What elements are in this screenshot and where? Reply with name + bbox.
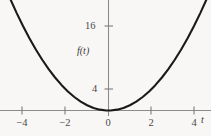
x-tick-label-4: 4 <box>191 118 196 129</box>
plot-canvas <box>0 0 211 136</box>
y-tick-label-4: 4 <box>92 84 97 95</box>
x-tick-label-2: 2 <box>148 118 153 129</box>
parabola-figure: f(t) t 16 4 −4 −2 0 2 4 <box>0 0 211 136</box>
y-axis-title: f(t) <box>77 46 89 56</box>
parabola-curve <box>4 0 211 111</box>
x-tick-label-zero: 0 <box>105 118 110 129</box>
x-axis-title: t <box>201 115 204 125</box>
x-tick-label-neg4: −4 <box>16 118 27 129</box>
x-tick-label-neg2: −2 <box>59 118 70 129</box>
y-tick-label-16: 16 <box>85 21 96 32</box>
